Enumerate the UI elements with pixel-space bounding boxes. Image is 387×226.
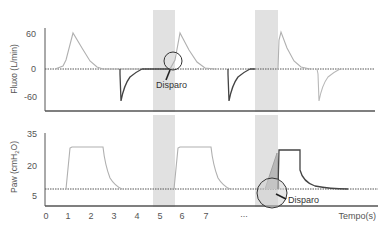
flow-panel: 60 0 -60 Fluxo (L/min) Disparo <box>9 28 375 111</box>
x-tick-4: 4 <box>134 211 139 221</box>
shaded-regions <box>153 10 278 207</box>
flow-trace-expiration-3 <box>317 69 340 101</box>
flow-trace-expiration-2 <box>228 69 255 101</box>
pressure-tick-20: 20 <box>27 161 37 171</box>
pressure-trace-cycle-3 <box>278 150 348 189</box>
x-tick-2: 2 <box>88 211 93 221</box>
ventilator-waveform-chart: 60 0 -60 Fluxo (L/min) Disparo 35 20 5 P… <box>0 0 387 226</box>
x-tick-7: 7 <box>203 211 208 221</box>
flow-trace-inspiration-1 <box>55 33 140 69</box>
flow-y-label: Fluxo (L/min) <box>9 44 19 94</box>
x-tick-6: 6 <box>179 211 184 221</box>
trigger-circle-bottom <box>257 178 287 208</box>
x-tick-1: 1 <box>65 211 70 221</box>
x-tick-ellipsis: ... <box>240 209 248 219</box>
flow-tick-0: 0 <box>31 64 36 74</box>
pressure-tick-35: 35 <box>27 129 37 139</box>
pressure-y-label: Paw (cmH2O) <box>9 141 20 193</box>
shaded-band-2 <box>255 10 278 112</box>
trigger-label-top: Disparo <box>156 80 187 90</box>
shaded-band-1-lower <box>153 115 175 207</box>
pressure-panel: 35 20 5 Paw (cmH2O) Disparo 0 1 2 3 4 5 … <box>9 129 378 221</box>
pressure-tick-5: 5 <box>32 191 37 201</box>
flow-trace-inspiration-3 <box>278 32 310 69</box>
x-tick-0: 0 <box>43 211 48 221</box>
x-axis-title: Tempo(s) <box>338 211 376 221</box>
x-tick-5: 5 <box>157 211 162 221</box>
x-tick-3: 3 <box>111 211 116 221</box>
flow-tick-minus60: -60 <box>24 92 37 102</box>
pressure-trace-cycle-1 <box>66 147 122 189</box>
flow-tick-60: 60 <box>26 29 36 39</box>
pressure-trace-cycle-2 <box>174 147 230 189</box>
trigger-label-bottom: Disparo <box>288 195 319 205</box>
flow-trace-inspiration-2 <box>170 33 215 69</box>
